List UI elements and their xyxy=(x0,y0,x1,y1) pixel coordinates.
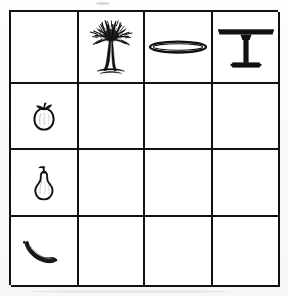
grid-header-banana[interactable] xyxy=(11,217,79,287)
scan-artifact-bottom xyxy=(30,290,230,293)
tree-icon xyxy=(83,16,139,78)
plate-icon xyxy=(148,36,208,58)
grid-cell-r1c2[interactable] xyxy=(145,84,213,150)
grid-cell-r3c2[interactable] xyxy=(145,217,213,287)
grid-header-plate[interactable] xyxy=(145,12,213,84)
grid-cell-r1c3[interactable] xyxy=(213,84,280,150)
picture-matrix-grid xyxy=(9,10,278,285)
pear-icon xyxy=(30,164,58,202)
grid-cell-r1c1[interactable] xyxy=(79,84,145,150)
table-icon xyxy=(216,23,276,71)
grid-header-pear[interactable] xyxy=(11,150,79,217)
grid-header-table[interactable] xyxy=(213,12,280,84)
grid-cell-r2c2[interactable] xyxy=(145,150,213,217)
grid-cell-corner[interactable] xyxy=(11,12,79,84)
grid-cell-r3c3[interactable] xyxy=(213,217,280,287)
grid-cell-r3c1[interactable] xyxy=(79,217,145,287)
apple-icon xyxy=(30,100,58,132)
banana-icon xyxy=(21,236,67,266)
grid-header-apple[interactable] xyxy=(11,84,79,150)
grid-cell-r2c3[interactable] xyxy=(213,150,280,217)
grid-cell-r2c1[interactable] xyxy=(79,150,145,217)
scan-artifact-top xyxy=(96,2,110,5)
grid-header-tree[interactable] xyxy=(79,12,145,84)
